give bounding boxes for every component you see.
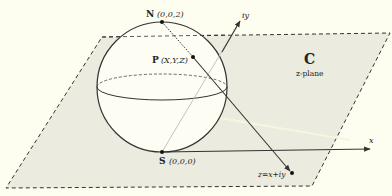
riemann-sphere (97, 22, 227, 152)
iy-axis-label: iy (242, 11, 250, 20)
x-axis-label: x (369, 136, 374, 145)
south-pole-point (160, 150, 164, 154)
z-point (290, 171, 294, 175)
plane-name: C (304, 51, 315, 67)
south-coords: (0,0,0) (169, 157, 196, 166)
point-p (191, 55, 195, 59)
plane-subtitle: z-plane (296, 69, 324, 78)
north-pole-point (160, 20, 164, 24)
z-label: z=x+iy (257, 170, 286, 179)
p-label: P (152, 55, 159, 65)
north-coords: (0,0,2) (157, 10, 184, 19)
p-coords: (X,Y,Z) (161, 56, 188, 65)
stereographic-diagram: N (0,0,2) P (X,Y,Z) S (0,0,0) z=x+iy C z… (0, 0, 392, 196)
north-label: N (146, 9, 154, 19)
south-label: S (159, 156, 166, 166)
